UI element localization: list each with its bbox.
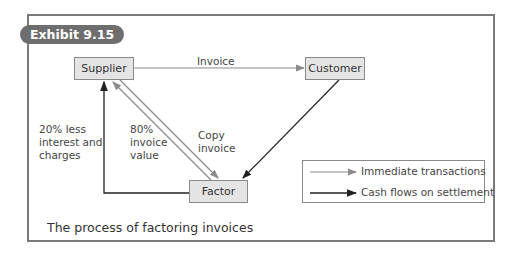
eighty-line-3: value [130, 149, 167, 162]
eighty-line-2: invoice [130, 136, 167, 149]
legend-settlement-label: Cash flows on settlement [361, 186, 494, 198]
caption: The process of factoring invoices [47, 220, 253, 235]
twenty-percent-label: 20% less interest and charges [39, 123, 102, 162]
customer-node: Customer [305, 57, 365, 80]
twenty-line-3: charges [39, 149, 102, 162]
copy-invoice-label: Copy invoice [198, 129, 235, 155]
eighty-percent-label: 80% invoice value [130, 123, 167, 162]
eighty-line-1: 80% [130, 123, 167, 136]
legend-immediate-label: Immediate transactions [361, 165, 486, 177]
factor-node: Factor [189, 180, 248, 203]
twenty-line-2: interest and [39, 136, 102, 149]
invoice-label: Invoice [197, 55, 235, 68]
twenty-line-1: 20% less [39, 123, 102, 136]
copy-invoice-line-2: invoice [198, 142, 235, 155]
supplier-node: Supplier [74, 57, 134, 80]
copy-invoice-line-1: Copy [198, 129, 235, 142]
